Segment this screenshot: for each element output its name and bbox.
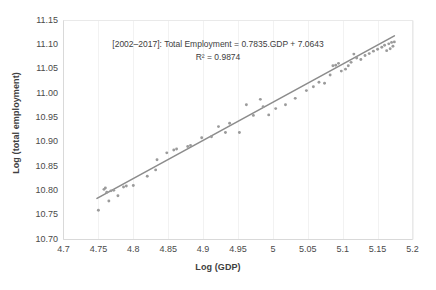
data-point	[107, 200, 110, 203]
data-point	[372, 50, 375, 53]
data-point	[355, 57, 358, 60]
y-tick-label: 10.75	[18, 209, 58, 219]
data-point	[380, 46, 383, 49]
trendline-path	[97, 36, 394, 198]
data-point	[97, 209, 100, 212]
data-point	[224, 131, 227, 134]
data-point	[334, 64, 337, 67]
y-axis-title: Log (total employment)	[11, 53, 21, 193]
data-point	[368, 52, 371, 55]
data-point	[210, 135, 213, 138]
data-point	[189, 144, 192, 147]
data-point	[385, 49, 388, 52]
data-point	[146, 175, 149, 178]
data-point	[350, 61, 353, 64]
data-point	[312, 85, 315, 88]
data-point	[383, 44, 386, 47]
data-point	[359, 58, 362, 61]
data-point	[262, 105, 265, 108]
data-point	[376, 48, 379, 51]
data-point	[390, 41, 393, 44]
data-point	[389, 47, 392, 50]
data-point	[329, 74, 332, 77]
data-point	[175, 148, 178, 151]
y-tick-label: 11.15	[18, 15, 58, 25]
data-point	[104, 186, 107, 189]
data-point	[352, 53, 355, 56]
gridlines	[99, 21, 414, 240]
y-tick-label: 11.10	[18, 39, 58, 49]
data-point	[340, 70, 343, 73]
data-point	[125, 185, 128, 188]
data-point	[132, 184, 135, 187]
data-point	[186, 145, 189, 148]
data-point	[274, 107, 277, 110]
data-points	[97, 40, 396, 211]
data-point	[165, 151, 168, 154]
data-point	[392, 45, 395, 48]
data-point	[323, 82, 326, 85]
y-tick-label: 10.80	[18, 185, 58, 195]
data-point	[200, 136, 203, 139]
data-point	[252, 114, 255, 117]
y-tick-label: 11.05	[18, 63, 58, 73]
data-point	[110, 189, 113, 192]
data-point	[318, 81, 321, 84]
data-point	[228, 122, 231, 125]
y-tick-label: 10.95	[18, 112, 58, 122]
y-tick-label: 10.90	[18, 136, 58, 146]
data-point	[364, 54, 367, 57]
data-point	[156, 158, 159, 161]
data-point	[238, 131, 241, 134]
data-point	[259, 98, 262, 101]
data-point	[347, 64, 350, 67]
y-tick-label: 10.70	[18, 234, 58, 244]
data-point	[112, 189, 115, 192]
data-point	[116, 194, 119, 197]
x-tick-label: 5.2	[393, 244, 433, 254]
data-point	[305, 89, 308, 92]
data-point	[122, 185, 125, 188]
y-tick-label: 11.00	[18, 88, 58, 98]
data-point	[267, 113, 270, 116]
data-point	[105, 191, 108, 194]
data-point	[245, 103, 248, 106]
data-point	[344, 68, 347, 71]
data-point	[393, 40, 396, 43]
x-axis-title: Log (GDP)	[0, 262, 436, 272]
data-point	[294, 97, 297, 100]
data-point	[387, 42, 390, 45]
data-point	[331, 64, 334, 67]
scatter-chart: 10.7010.7510.8010.8510.9010.9511.0011.05…	[0, 0, 436, 290]
data-point	[154, 168, 157, 171]
data-point	[217, 125, 220, 128]
trendline	[97, 36, 394, 198]
y-tick-label: 10.85	[18, 161, 58, 171]
data-point	[337, 62, 340, 65]
data-point	[172, 149, 175, 152]
data-point	[284, 103, 287, 106]
